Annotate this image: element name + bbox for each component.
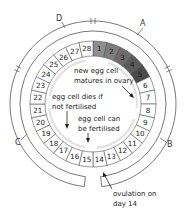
phase-boundary-tick-1 <box>165 66 170 69</box>
day-label-25: 25 <box>49 60 58 69</box>
day-label-1: 1 <box>97 44 102 53</box>
day-label-16: 16 <box>70 152 80 161</box>
day-label-13: 13 <box>107 152 116 161</box>
day-label-21: 21 <box>33 106 42 115</box>
day-label-23: 23 <box>36 81 45 90</box>
annotation-matures-line2: matures in ovary <box>74 77 134 85</box>
day-label-20: 20 <box>36 118 46 127</box>
day-label-28: 28 <box>82 44 92 53</box>
phase-label-a: A <box>140 19 146 28</box>
phase-boundary-tick-2 <box>16 66 21 69</box>
day-label-8: 8 <box>146 106 151 115</box>
phase-label-b: B <box>167 140 173 149</box>
annotation-fertilised-line1: egg cell can <box>78 115 120 123</box>
day-label-19: 19 <box>41 129 51 138</box>
annotation-ovulation-line2: day 14 <box>113 200 138 208</box>
annotation-ovulation-line1: ovulation on <box>113 190 156 198</box>
ovulation-notch-right <box>101 177 102 187</box>
menstrual-cycle-diagram: 1234567891011121314151617181920212223242… <box>0 0 186 216</box>
day-label-7: 7 <box>146 93 151 102</box>
day-label-18: 18 <box>49 139 59 148</box>
day-label-12: 12 <box>118 146 127 155</box>
arrow-ovulation <box>105 176 112 189</box>
arrowhead-ovulation-icon <box>103 172 107 177</box>
arrowhead-dies-icon <box>65 124 69 129</box>
phase-label-d: D <box>56 14 62 23</box>
day-label-10: 10 <box>135 129 145 138</box>
ovulation-notch-left <box>84 177 85 187</box>
leader-line-b <box>160 138 166 142</box>
day-label-3: 3 <box>120 53 125 62</box>
day-label-15: 15 <box>82 155 91 164</box>
day-label-24: 24 <box>41 70 51 79</box>
day-label-22: 22 <box>33 93 42 102</box>
annotation-dies-line2: not fertilised <box>52 103 96 111</box>
leader-line-a <box>137 28 143 35</box>
day-label-26: 26 <box>59 53 69 62</box>
day-label-2: 2 <box>109 47 114 56</box>
phase-label-c: C <box>15 138 21 147</box>
outer-ring-inner-arc-top <box>83 31 103 32</box>
day-label-17: 17 <box>59 146 68 155</box>
annotation-fertilised-line2: be fertilised <box>78 125 120 133</box>
day-label-9: 9 <box>143 118 148 127</box>
day-label-5: 5 <box>138 70 143 79</box>
day-label-4: 4 <box>130 60 135 69</box>
day-label-6: 6 <box>143 81 148 90</box>
leader-line-c <box>21 134 27 140</box>
arrowhead-fertilised-icon <box>86 138 90 143</box>
day-label-14: 14 <box>95 155 105 164</box>
annotation-matures-line1: new egg cell <box>74 67 118 75</box>
day-label-11: 11 <box>128 139 137 148</box>
day-label-27: 27 <box>70 47 79 56</box>
annotation-dies-line1: egg cell dies if <box>52 93 103 101</box>
